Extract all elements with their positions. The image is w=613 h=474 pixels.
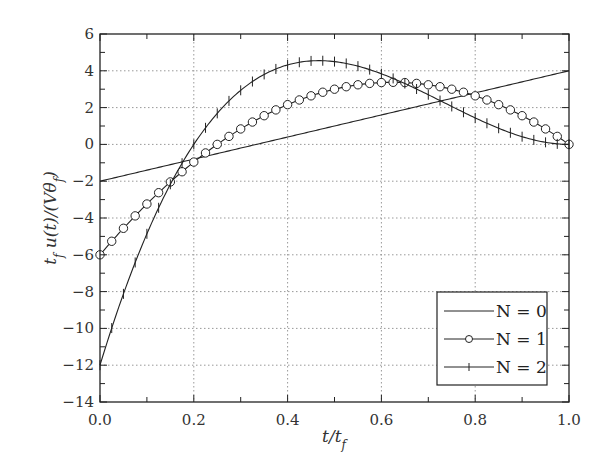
circle-marker xyxy=(342,83,350,91)
circle-marker xyxy=(448,85,456,93)
circle-marker xyxy=(494,100,502,108)
circle-marker xyxy=(506,106,514,114)
legend-label: N = 2 xyxy=(496,357,547,377)
x-tick-label: 0.2 xyxy=(182,411,206,429)
circle-marker xyxy=(213,140,221,148)
circle-marker xyxy=(330,85,338,93)
circle-marker xyxy=(354,81,362,89)
circle-marker xyxy=(108,237,116,245)
circle-marker xyxy=(272,106,280,114)
x-tick-label: 0.8 xyxy=(463,411,487,429)
legend-label: N = 1 xyxy=(496,329,547,349)
x-tick-label: 0.6 xyxy=(369,411,393,429)
y-tick-label: −14 xyxy=(62,393,94,411)
circle-marker xyxy=(283,100,291,108)
y-axis-label: tf u(t)/(Vθf) xyxy=(40,171,66,265)
circle-marker xyxy=(260,111,268,119)
y-tick-label: 6 xyxy=(84,25,94,43)
circle-marker xyxy=(365,79,373,87)
circle-marker xyxy=(530,118,538,126)
circle-marker xyxy=(237,125,245,133)
circle-marker xyxy=(154,189,162,197)
circle-marker xyxy=(119,224,127,232)
y-tick-label: −2 xyxy=(72,172,94,190)
circle-marker xyxy=(131,212,139,220)
circle-marker xyxy=(248,118,256,126)
x-tick-label: 1.0 xyxy=(557,411,581,429)
circle-marker xyxy=(424,81,432,89)
legend: N = 0 N = 1 N = 2 xyxy=(437,292,547,385)
y-tick-label: −10 xyxy=(62,319,94,337)
circle-marker xyxy=(143,200,151,208)
circle-marker xyxy=(483,96,491,104)
circle-marker xyxy=(190,158,198,166)
x-tick-label: 0.4 xyxy=(276,411,300,429)
circle-marker xyxy=(377,78,385,86)
y-tick-label: 2 xyxy=(84,99,94,117)
circle-marker xyxy=(295,96,303,104)
circle-marker xyxy=(518,111,526,119)
circle-marker xyxy=(459,88,467,96)
y-tick-label: 4 xyxy=(84,62,94,80)
circle-marker xyxy=(436,83,444,91)
y-tick-label: 0 xyxy=(84,135,94,153)
circle-marker xyxy=(319,88,327,96)
chart: 0.00.20.40.60.81.06420−2−4−6−8−10−12−14 … xyxy=(0,0,613,474)
circle-marker xyxy=(471,92,479,100)
legend-label: N = 0 xyxy=(496,301,547,321)
circle-marker-icon xyxy=(466,336,473,343)
circle-marker xyxy=(541,125,549,133)
x-axis-label: t/tf xyxy=(322,426,348,452)
y-tick-label: −4 xyxy=(72,209,94,227)
circle-marker xyxy=(225,132,233,140)
y-tick-label: −8 xyxy=(72,283,94,301)
x-tick-label: 0.0 xyxy=(88,411,112,429)
y-tick-label: −6 xyxy=(72,246,94,264)
y-tick-label: −12 xyxy=(62,356,94,374)
circle-marker xyxy=(307,92,315,100)
circle-marker xyxy=(201,149,209,157)
